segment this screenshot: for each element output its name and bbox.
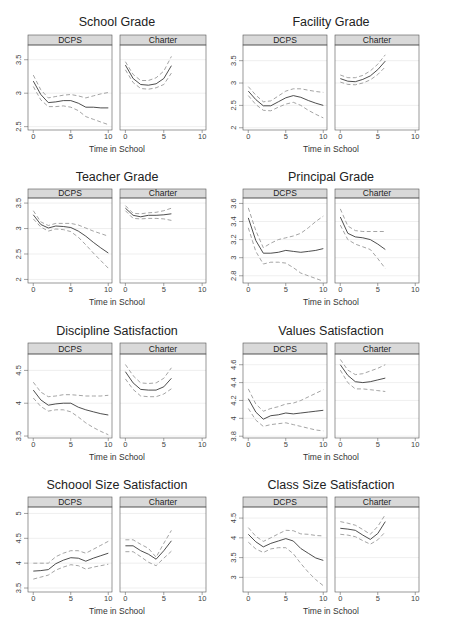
plot-area (243, 507, 327, 592)
x-tick-label: 10 (104, 594, 112, 603)
strip-label: DCPS (273, 497, 297, 507)
plot-area (335, 507, 419, 592)
x-axis-label: Time in School (89, 452, 145, 462)
x-tick-label: 10 (319, 594, 327, 603)
plot-area (28, 198, 112, 283)
panel-charter: Charter0510 (120, 343, 206, 449)
y-tick-label: 3.8 (229, 431, 238, 441)
y-tick-label: 3.6 (229, 198, 238, 208)
y-tick-label: 4 (14, 561, 23, 565)
chart-title: Values Satisfaction (278, 324, 383, 338)
panel-dcps: DCPS0510 (28, 497, 112, 603)
x-axis-label: Time in School (89, 606, 145, 616)
x-tick-label: 5 (376, 285, 380, 294)
strip-label: Charter (363, 188, 392, 198)
x-tick-label: 5 (162, 594, 166, 603)
y-tick-label: 3 (229, 81, 238, 85)
x-tick-label: 0 (31, 594, 35, 603)
x-tick-label: 5 (284, 594, 288, 603)
x-tick-label: 0 (246, 132, 250, 141)
plot-area (120, 354, 206, 438)
chart-title: School Grade (79, 15, 155, 29)
plot-area (243, 354, 327, 438)
y-tick-label: 4.5 (14, 533, 23, 543)
x-tick-label: 0 (246, 594, 250, 603)
chart-title: Discipline Satisfaction (56, 324, 178, 338)
x-tick-label: 5 (162, 440, 166, 449)
chart-title: Principal Grade (288, 170, 374, 184)
panel-charter: Charter0510 (120, 35, 206, 141)
y-tick-label: 3 (14, 226, 23, 230)
plot-area (28, 507, 112, 592)
panel-dcps: DCPS0510 (28, 343, 112, 449)
y-tick-label: 2.5 (229, 100, 238, 110)
panel-charter: Charter0510 (335, 188, 419, 294)
x-axis-label: Time in School (303, 452, 359, 462)
strip-label: Charter (363, 344, 392, 354)
x-tick-label: 0 (338, 285, 342, 294)
panel-dcps: DCPS0510 (243, 497, 327, 603)
x-tick-label: 5 (284, 285, 288, 294)
chart-5: Values Satisfaction3.844.24.44.6DCPS0510… (229, 324, 419, 462)
x-tick-label: 10 (411, 440, 419, 449)
panel-dcps: DCPS0510 (243, 35, 327, 141)
y-tick-label: 3.5 (14, 583, 23, 593)
y-tick-label: 2.5 (14, 121, 23, 131)
panel-charter: Charter0510 (335, 35, 419, 141)
x-tick-label: 10 (411, 285, 419, 294)
x-tick-label: 5 (284, 440, 288, 449)
y-tick-label: 3.5 (14, 431, 23, 441)
x-tick-label: 0 (31, 285, 35, 294)
plot-area (335, 354, 419, 438)
plot-area (243, 45, 327, 130)
x-tick-label: 5 (376, 440, 380, 449)
x-tick-label: 10 (411, 594, 419, 603)
x-axis-label: Time in School (89, 144, 145, 154)
chart-6: Schoool Size Satisfaction3.544.55DCPS051… (14, 478, 206, 616)
x-tick-label: 0 (31, 440, 35, 449)
x-axis-label: Time in School (303, 144, 359, 154)
x-tick-label: 5 (69, 132, 73, 141)
panel-charter: Charter0510 (120, 188, 206, 294)
x-tick-label: 10 (198, 594, 206, 603)
x-tick-label: 5 (69, 594, 73, 603)
panel-dcps: DCPS0510 (243, 188, 327, 294)
plot-area (120, 507, 206, 592)
y-tick-label: 4.5 (14, 365, 23, 375)
x-tick-label: 0 (338, 132, 342, 141)
x-tick-label: 0 (338, 594, 342, 603)
x-tick-label: 10 (319, 440, 327, 449)
panel-charter: Charter0510 (335, 497, 419, 603)
x-tick-label: 5 (284, 132, 288, 141)
chart-3: Principal Grade2.833.23.43.6DCPS0510Char… (229, 170, 419, 307)
x-tick-label: 10 (198, 132, 206, 141)
strip-label: DCPS (273, 344, 297, 354)
x-tick-label: 10 (198, 285, 206, 294)
x-tick-label: 5 (69, 440, 73, 449)
plot-area (28, 45, 112, 130)
y-tick-label: 2 (14, 277, 23, 281)
panel-charter: Charter0510 (120, 497, 206, 603)
y-tick-label: 4 (229, 536, 238, 540)
strip-label: DCPS (273, 188, 297, 198)
y-tick-label: 3.5 (229, 552, 238, 562)
chart-title: Facility Grade (292, 15, 369, 29)
y-tick-label: 4 (229, 416, 238, 420)
chart-7: Class Size Satisfaction33.544.5DCPS0510C… (229, 478, 419, 616)
y-tick-label: 4.5 (229, 513, 238, 523)
chart-title: Class Size Satisfaction (267, 478, 394, 492)
y-tick-label: 3.5 (229, 55, 238, 65)
x-tick-label: 10 (319, 132, 327, 141)
panel-charter: Charter0510 (335, 343, 419, 449)
strip-label: Charter (149, 497, 178, 507)
strip-label: DCPS (58, 344, 82, 354)
x-tick-label: 0 (123, 132, 127, 141)
x-tick-label: 0 (123, 594, 127, 603)
panel-dcps: DCPS0510 (28, 188, 112, 294)
y-tick-label: 4 (14, 401, 23, 405)
plot-area (120, 45, 206, 130)
strip-label: Charter (149, 344, 178, 354)
x-tick-label: 0 (246, 440, 250, 449)
y-tick-label: 3 (229, 575, 238, 579)
plot-area (335, 198, 419, 283)
